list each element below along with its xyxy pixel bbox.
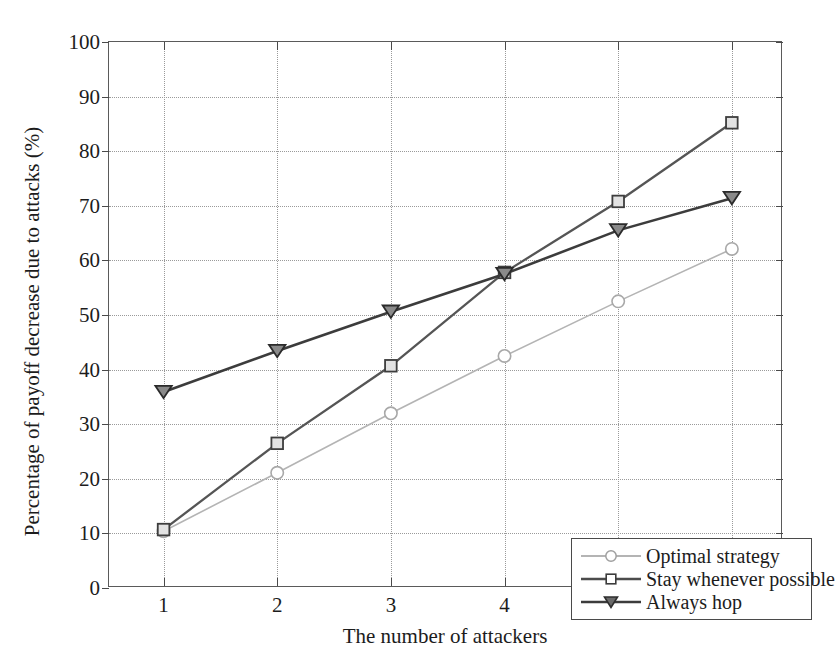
legend-swatch-circle-icon — [580, 546, 642, 566]
series-line — [164, 123, 732, 530]
y-tick-label: 40 — [79, 357, 100, 382]
y-tick-label: 10 — [79, 521, 100, 546]
x-tick-label: 2 — [272, 593, 283, 618]
marker-circle-icon — [726, 243, 738, 255]
marker-circle-icon — [271, 467, 283, 479]
y-tick-label: 50 — [79, 303, 100, 328]
y-tick-label: 20 — [79, 466, 100, 491]
x-axis-title: The number of attackers — [108, 624, 782, 649]
legend-item-stay-whenever-possible[interactable]: Stay whenever possible — [580, 567, 803, 590]
series-stay-whenever-possible — [158, 117, 738, 535]
legend-item-optimal-strategy[interactable]: Optimal strategy — [580, 544, 803, 567]
legend-item-always-hop[interactable]: Always hop — [580, 590, 803, 613]
y-tick-mark — [102, 370, 109, 371]
y-tick-mark — [102, 42, 109, 43]
marker-triangle-down-icon — [724, 192, 740, 204]
legend-swatch-triangle-down-icon — [580, 592, 642, 612]
series-always-hop — [155, 192, 740, 398]
marker-triangle-down-icon — [610, 224, 626, 236]
marker-triangle-down-icon — [269, 345, 285, 357]
marker-circle-icon — [498, 350, 510, 362]
y-tick-mark — [102, 588, 109, 589]
y-tick-label: 60 — [79, 248, 100, 273]
y-axis-title: Percentage of payoff decrease due to att… — [14, 0, 50, 663]
y-tick-mark — [102, 533, 109, 534]
legend-label: Optimal strategy — [646, 546, 780, 566]
marker-circle-icon — [612, 295, 624, 307]
y-tick-mark — [102, 97, 109, 98]
y-tick-label: 70 — [79, 193, 100, 218]
series-layer — [109, 42, 783, 588]
x-tick-label: 3 — [386, 593, 397, 618]
y-tick-mark — [102, 479, 109, 480]
legend-swatch-square-icon — [580, 569, 642, 589]
marker-square-icon — [158, 524, 170, 536]
y-tick-mark — [102, 260, 109, 261]
marker-square-icon — [612, 196, 624, 208]
marker-triangle-down-icon — [383, 306, 399, 318]
legend: Optimal strategy Stay whenever possible … — [571, 538, 812, 620]
marker-square-icon — [271, 438, 283, 450]
y-tick-label: 90 — [79, 84, 100, 109]
x-tick-label: 4 — [499, 593, 510, 618]
y-tick-mark — [102, 424, 109, 425]
y-tick-label: 30 — [79, 412, 100, 437]
y-tick-label: 80 — [79, 139, 100, 164]
y-tick-label: 0 — [90, 576, 101, 601]
series-line — [164, 198, 732, 392]
marker-circle-icon — [385, 407, 397, 419]
y-tick-mark — [102, 151, 109, 152]
y-axis-title-container: Percentage of payoff decrease due to att… — [14, 0, 50, 663]
x-tick-label: 1 — [158, 593, 169, 618]
marker-square-icon — [385, 360, 397, 372]
y-tick-label: 100 — [69, 30, 101, 55]
series-line — [164, 249, 732, 531]
marker-triangle-down-icon — [155, 386, 171, 398]
series-optimal-strategy — [157, 243, 738, 538]
y-tick-mark — [102, 315, 109, 316]
y-tick-mark — [102, 206, 109, 207]
legend-label: Stay whenever possible — [646, 569, 835, 589]
plot-area: 0102030405060708090100123456 Optimal str… — [108, 41, 782, 587]
marker-square-icon — [726, 117, 738, 129]
legend-label: Always hop — [646, 592, 742, 612]
